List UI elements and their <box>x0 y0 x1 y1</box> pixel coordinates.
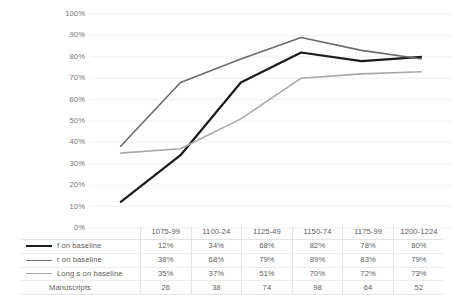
table-row: f on baseline12%34%68%82%78%80% <box>20 239 444 253</box>
table-header-cell: 1125-49 <box>242 226 293 239</box>
table-cell: 98 <box>292 281 343 295</box>
series-line <box>120 38 422 147</box>
table-row: Manuscripts263874986452 <box>20 281 444 295</box>
table-cell: 82% <box>292 239 343 253</box>
table-cell: 35% <box>141 267 192 281</box>
table-row-label: Manuscripts <box>22 284 134 292</box>
line-swatch-black-icon <box>26 245 52 247</box>
table-row-label-cell: f on baseline <box>20 239 141 253</box>
table-cell: 38 <box>191 281 242 295</box>
table-cell: 12% <box>141 239 192 253</box>
table-cell: 68% <box>191 253 242 267</box>
legend-label: f on baseline <box>57 242 101 250</box>
table-row-label-cell: Manuscripts <box>20 281 141 295</box>
table-cell: 74 <box>242 281 293 295</box>
line-chart-svg <box>0 0 457 232</box>
table-header-blank <box>20 226 141 239</box>
table-cell: 70% <box>292 267 343 281</box>
table-cell: 79% <box>242 253 293 267</box>
table-cell: 68% <box>242 239 293 253</box>
table-cell: 34% <box>191 239 242 253</box>
table-cell: 79% <box>393 253 444 267</box>
table-row-label-cell: r on baseline <box>20 253 141 267</box>
table-header-cell: 1200-1224 <box>393 226 444 239</box>
table-cell: 37% <box>191 267 242 281</box>
table-cell: 64 <box>343 281 394 295</box>
table-cell: 51% <box>242 267 293 281</box>
table-body: f on baseline12%34%68%82%78%80%r on base… <box>20 239 444 294</box>
table-cell: 72% <box>343 267 394 281</box>
table-cell: 78% <box>343 239 394 253</box>
table-cell: 52 <box>393 281 444 295</box>
data-table: 1075-99 1100-24 1125-49 1150-74 1175-99 … <box>20 226 444 295</box>
table-header-cell: 1100-24 <box>191 226 242 239</box>
legend-label: r on baseline <box>57 256 102 264</box>
series-line <box>120 72 422 153</box>
table-header-cell: 1075-99 <box>141 226 192 239</box>
table-cell: 38% <box>141 253 192 267</box>
series-line <box>120 53 422 203</box>
table-cell: 80% <box>393 239 444 253</box>
table-cell: 83% <box>343 253 394 267</box>
table-row-label-cell: Long s on baseline <box>20 267 141 281</box>
line-swatch-gray-icon <box>26 260 52 261</box>
table-row: Long s on baseline35%37%51%70%72%73% <box>20 267 444 281</box>
table-cell: 89% <box>292 253 343 267</box>
series-lines <box>120 38 422 203</box>
table-header-cell: 1150-74 <box>292 226 343 239</box>
table-header-row: 1075-99 1100-24 1125-49 1150-74 1175-99 … <box>20 226 444 239</box>
table-cell: 26 <box>141 281 192 295</box>
table-cell: 73% <box>393 267 444 281</box>
table-row: r on baseline38%68%79%89%83%79% <box>20 253 444 267</box>
plot-area: 100%90%80%70%60%50%40%30%20%10%0% <box>0 0 457 232</box>
legend-label: Long s on baseline <box>57 270 123 278</box>
table-header-cell: 1175-99 <box>343 226 394 239</box>
line-swatch-lightgray-icon <box>26 273 52 274</box>
